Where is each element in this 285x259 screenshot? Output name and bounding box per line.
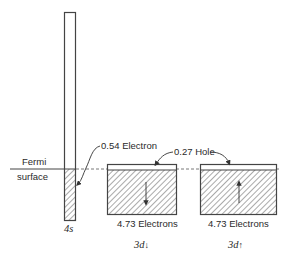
electron-pointer bbox=[78, 146, 100, 184]
spin-down-glyph: ↓ bbox=[145, 240, 150, 250]
band-3d-down-label: 3d↓ bbox=[134, 240, 149, 251]
band-3d-down-electrons: 4.73 Electrons bbox=[117, 219, 178, 229]
hole-pointer-left bbox=[156, 152, 173, 164]
spin-up-glyph: ↑ bbox=[239, 240, 244, 250]
hole-annotation: 0.27 Hole bbox=[174, 147, 215, 157]
band-3d-down bbox=[108, 165, 177, 215]
fermi-label-bottom: surface bbox=[17, 172, 48, 182]
band-3d-up-label-text: 3d bbox=[228, 239, 239, 250]
electron-annotation: 0.54 Electron bbox=[101, 141, 157, 151]
band-3d-up bbox=[201, 165, 277, 215]
band-4s-label: 4s bbox=[64, 224, 73, 235]
fermi-label-top: Fermi bbox=[22, 157, 46, 167]
band-4s bbox=[65, 13, 76, 221]
band-3d-up-label: 3d↑ bbox=[228, 240, 243, 251]
band-3d-up-electrons: 4.73 Electrons bbox=[208, 219, 269, 229]
band-4s-label-text: 4s bbox=[64, 223, 73, 234]
band-3d-down-label-text: 3d bbox=[134, 239, 145, 250]
